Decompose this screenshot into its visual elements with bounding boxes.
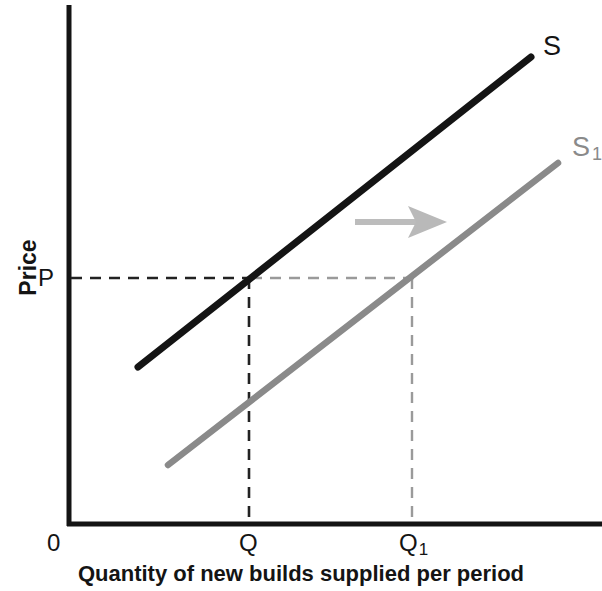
quantity-tick-label-q1: Q1 (399, 531, 427, 555)
y-axis-title: Price (17, 223, 40, 313)
curve-label-s1-text: S (572, 132, 590, 162)
plot-area (0, 0, 602, 591)
x-axis-title: Quantity of new builds supplied per peri… (0, 563, 602, 585)
quantity-tick-label-q1-text: Q (399, 529, 418, 556)
quantity-tick-label-q: Q (239, 531, 258, 555)
rightward-shift-arrow (355, 206, 447, 238)
supply-curve-s (138, 57, 531, 367)
supply-curve-s1 (168, 163, 558, 465)
origin-label: 0 (47, 531, 60, 555)
quantity-tick-label-q1-subscript: 1 (419, 540, 428, 559)
curve-label-s: S (543, 33, 561, 60)
supply-curve-figure: S S1 Price P 0 Q Q1 Quantity of new buil… (0, 0, 602, 591)
curve-label-s1-subscript: 1 (592, 144, 602, 164)
curve-label-s1: S1 (572, 134, 600, 161)
price-tick-label-p: P (38, 266, 54, 290)
